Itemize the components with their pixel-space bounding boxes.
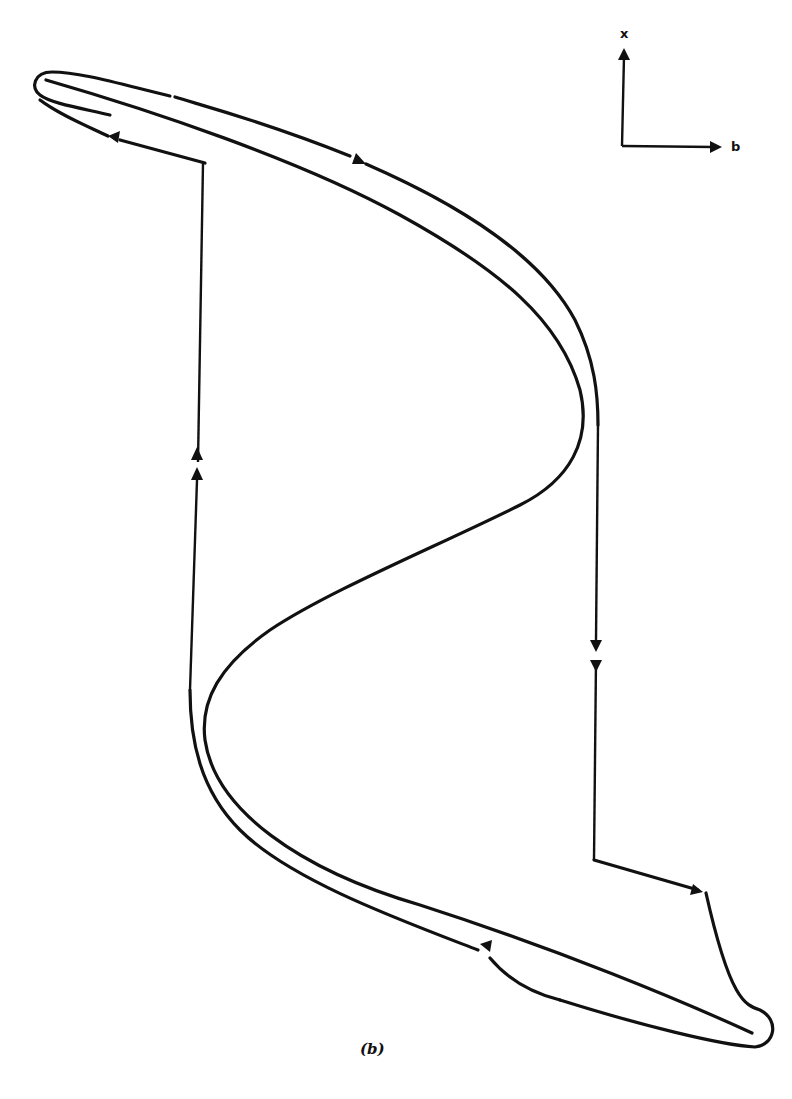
arrow-up-left-2-icon xyxy=(191,467,203,480)
b-axis-label: b xyxy=(731,139,740,154)
x-axis-label: x xyxy=(620,26,628,41)
figure-caption: (b) xyxy=(360,1040,385,1058)
arrow-left-upper-icon xyxy=(108,131,120,143)
x-axis-arrow-line xyxy=(622,56,624,146)
b-axis-arrowhead-icon xyxy=(710,141,722,153)
arrow-right-lower-icon xyxy=(690,884,703,895)
arrow-right-upper-icon xyxy=(352,153,366,164)
left-jump-line xyxy=(190,480,197,690)
arrow-down-right-2-icon xyxy=(590,660,602,672)
lower-right-segment xyxy=(594,860,698,890)
right-jump-line-2 xyxy=(594,660,596,860)
lower-outer-path xyxy=(490,958,560,1000)
b-axis-arrow-line xyxy=(622,146,714,147)
left-jump-line-2 xyxy=(198,163,203,462)
upper-return-path xyxy=(120,140,205,163)
right-jump-line xyxy=(596,425,598,640)
upper-outer-path xyxy=(175,97,350,156)
x-axis-arrowhead-icon xyxy=(618,48,630,60)
arrow-up-left-1-icon xyxy=(191,447,203,460)
hysteresis-diagram xyxy=(0,0,792,1099)
upper-outer-path-2 xyxy=(366,164,598,425)
arrow-left-lower-icon xyxy=(480,940,492,952)
s-curve xyxy=(46,80,752,1033)
lower-right-segment-2 xyxy=(560,893,773,1047)
arrow-down-right-1-icon xyxy=(590,640,602,652)
